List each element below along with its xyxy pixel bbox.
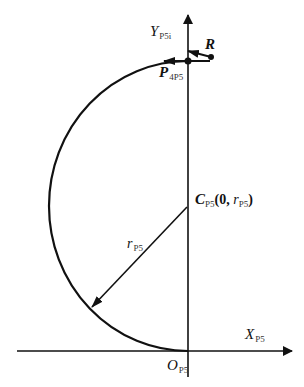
center-label: CP5(0, rP5): [195, 191, 253, 209]
point-r-dot: [208, 54, 214, 60]
y-axis-label: YP5i: [150, 23, 172, 41]
point-p-label: P4P5: [159, 64, 184, 82]
point-r-label: R: [204, 36, 215, 52]
trajectory-arc-elliptic: [49, 61, 188, 351]
radius-label: rP5: [127, 236, 143, 253]
radius-arrow: [92, 207, 187, 307]
point-p-dot: [185, 58, 192, 65]
coordinate-diagram: YP5i R P4P5 CP5(0, rP5) rP5 XP5 OP5: [0, 0, 304, 387]
x-axis-label: XP5: [244, 326, 265, 344]
origin-label: OP5: [167, 357, 189, 375]
